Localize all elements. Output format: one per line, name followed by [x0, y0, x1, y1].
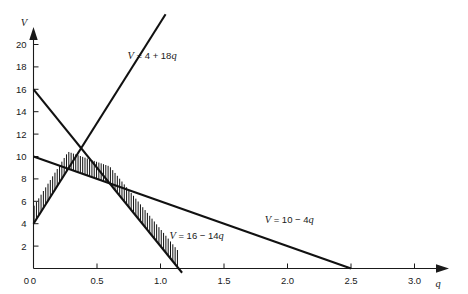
x-tick-label: 0.5 [90, 275, 103, 286]
x-tick-label: 1.5 [217, 275, 230, 286]
equation-label: V = 16 − 14q [169, 230, 223, 241]
x-tick-label: 1.0 [154, 275, 167, 286]
x-tick-label: 2.0 [281, 275, 294, 286]
y-tick-label: 14 [16, 106, 27, 117]
x-axis-label: q [435, 278, 440, 289]
origin-tick-label: 0 [24, 275, 29, 286]
y-tick-label: 10 [16, 151, 27, 162]
y-tick-label: 12 [16, 129, 27, 140]
chart-background [0, 0, 468, 294]
x-tick-label: 0 [31, 275, 36, 286]
y-tick-label: 8 [21, 173, 26, 184]
equation-label: V = 10 − 4q [265, 214, 314, 225]
y-tick-label: 16 [16, 84, 27, 95]
y-tick-label: 4 [21, 218, 26, 229]
chart-figure: 00.51.01.52.02.53.024681012141618200 V =… [0, 0, 468, 294]
x-tick-label: 2.5 [344, 275, 357, 286]
y-tick-label: 6 [21, 196, 26, 207]
y-tick-label: 18 [16, 61, 27, 72]
y-tick-label: 20 [16, 39, 27, 50]
y-tick-label: 2 [21, 241, 26, 252]
equation-label: V = 4 + 18q [127, 50, 176, 61]
x-tick-label: 3.0 [408, 275, 421, 286]
